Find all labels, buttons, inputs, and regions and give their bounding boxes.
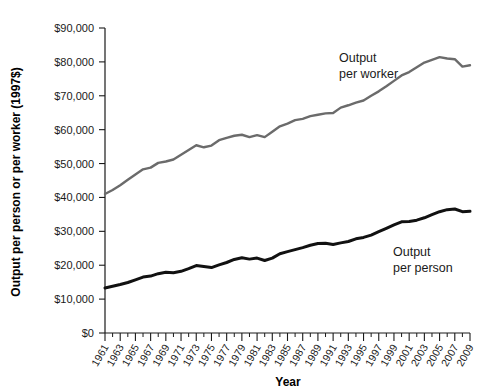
x-axis-title: Year <box>275 375 301 389</box>
annotation-output-per-person-line1: Output <box>393 245 431 259</box>
y-tick-label: $80,000 <box>54 56 94 68</box>
y-axis-title: Output per person or per worker (1997$) <box>9 67 23 296</box>
x-axis-ticks <box>105 333 470 341</box>
x-tick-label: 2009 <box>454 342 476 368</box>
x-axis-tick-labels: 1961196319651967196919711973197519771979… <box>89 342 476 368</box>
annotation-output-per-person-line2: per person <box>393 261 453 275</box>
y-axis-tick-labels: $0$10,000$20,000$30,000$40,000$50,000$60… <box>54 22 94 339</box>
annotation-output-per-worker-line2: per worker <box>339 67 398 81</box>
y-tick-label: $40,000 <box>54 191 94 203</box>
y-tick-label: $0 <box>82 327 94 339</box>
y-tick-label: $30,000 <box>54 225 94 237</box>
y-tick-label: $20,000 <box>54 259 94 271</box>
y-tick-label: $50,000 <box>54 158 94 170</box>
chart-figure: $0$10,000$20,000$30,000$40,000$50,000$60… <box>0 0 502 392</box>
series-line-output-per-worker <box>105 57 470 194</box>
y-tick-label: $10,000 <box>54 293 94 305</box>
y-tick-label: $60,000 <box>54 124 94 136</box>
annotation-output-per-worker-line1: Output <box>339 51 377 65</box>
y-tick-label: $90,000 <box>54 22 94 34</box>
line-chart: $0$10,000$20,000$30,000$40,000$50,000$60… <box>0 0 502 392</box>
y-tick-label: $70,000 <box>54 90 94 102</box>
